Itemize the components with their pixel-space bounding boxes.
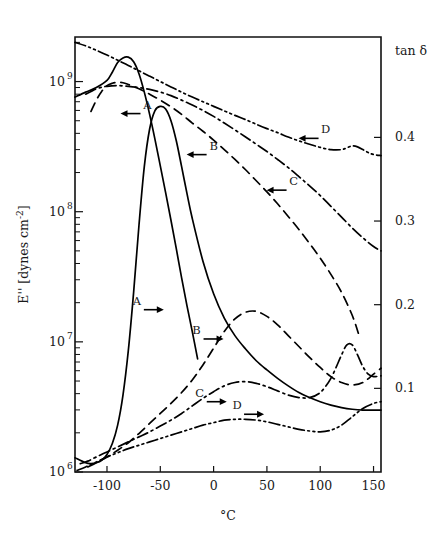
curve-labels: ABCDABCD bbox=[121, 98, 331, 418]
x-tick-label: -50 bbox=[150, 478, 170, 493]
axis-labels: °CE'' [dynes cm-2]tan δ bbox=[15, 43, 427, 523]
y-tick-label-exponent: 6 bbox=[67, 461, 73, 471]
curve-label-b-tandelta: B bbox=[192, 323, 200, 337]
y-tick-label-exponent: 8 bbox=[67, 201, 73, 211]
x-tick-label: 0 bbox=[210, 478, 218, 493]
y-tick-label: 10 bbox=[49, 464, 65, 479]
curve-c-tandelta bbox=[80, 344, 381, 464]
curve-label-d-tandelta: D bbox=[232, 398, 241, 412]
y2-tick-label: 0.1 bbox=[395, 380, 415, 395]
y2-axis-title: tan δ bbox=[395, 43, 427, 58]
curve-label-c-tandelta: C bbox=[195, 386, 204, 400]
curve-b-emodulus bbox=[91, 82, 359, 334]
y-tick-label-exponent: 7 bbox=[67, 331, 73, 341]
x-tick-label: 150 bbox=[362, 478, 386, 493]
svg-text:E'' [dynes cm-2]: E'' [dynes cm-2] bbox=[15, 205, 31, 303]
dma-chart: -100-500501001501061071081090.10.20.30.4… bbox=[0, 0, 447, 538]
curve-a-emodulus bbox=[75, 57, 198, 359]
curve-c-emodulus bbox=[86, 86, 381, 251]
y-tick-label: 10 bbox=[49, 204, 65, 219]
y2-tick-label: 0.4 bbox=[395, 129, 415, 144]
x-tick-label: 100 bbox=[308, 478, 332, 493]
x-tick-label: 50 bbox=[259, 478, 275, 493]
y2-tick-label: 0.3 bbox=[395, 213, 415, 228]
curve-label-a-tandelta: A bbox=[132, 294, 142, 308]
x-axis-title: °C bbox=[220, 508, 236, 523]
x-tick-label: -100 bbox=[93, 478, 121, 493]
curve-a-tandelta bbox=[75, 106, 381, 463]
arrowhead-right bbox=[220, 398, 227, 405]
y2-tick-label: 0.2 bbox=[395, 297, 415, 312]
arrowhead-right bbox=[257, 411, 264, 418]
figure-container: -100-500501001501061071081090.10.20.30.4… bbox=[0, 0, 447, 538]
y-axis-title: E'' [dynes cm-2] bbox=[15, 205, 31, 303]
y-tick-label: 10 bbox=[49, 74, 65, 89]
curve-d-tandelta bbox=[77, 402, 381, 471]
arrowhead-left bbox=[187, 151, 194, 158]
axis-ticks: -100-500501001501061071081090.10.20.30.4 bbox=[49, 42, 415, 493]
y-tick-label: 10 bbox=[49, 334, 65, 349]
curve-paths bbox=[75, 42, 381, 470]
curve-label-d-emodulus: D bbox=[321, 122, 330, 136]
curve-label-c-emodulus: C bbox=[289, 174, 298, 188]
arrowhead-left bbox=[121, 110, 128, 117]
arrowhead-right bbox=[157, 306, 164, 313]
y-tick-label-exponent: 9 bbox=[67, 71, 73, 81]
curve-label-b-emodulus: B bbox=[209, 139, 217, 153]
curve-label-a-emodulus: A bbox=[142, 98, 152, 112]
